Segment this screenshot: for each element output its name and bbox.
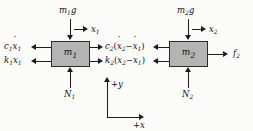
normal-2-arrow-head: [185, 67, 191, 72]
mass-2-label: m2: [182, 48, 195, 59]
disp-1-label: x1: [91, 25, 100, 34]
axis-y-arrow-head: [104, 77, 110, 82]
damper-2-right-arrow-line: [158, 47, 169, 48]
spring-2-label: k2(x2−x1): [105, 56, 145, 65]
mass-1-box: m1: [51, 41, 90, 67]
damper-1-arrow-head: [31, 44, 36, 50]
gravity-2-arrow-head: [185, 35, 191, 40]
gravity-2-label: m2g: [177, 6, 194, 15]
applied-force-arrow-line: [208, 54, 224, 55]
spring-2-right-arrow-head: [153, 58, 158, 64]
spring-2-right-arrow-line: [158, 61, 169, 62]
spring-1-arrow-line: [36, 61, 51, 62]
normal-1-arrow-line: [70, 72, 71, 88]
disp-2-arrow-head: [201, 26, 206, 32]
spring-1-arrow-head: [31, 58, 36, 64]
normal-1-arrow-head: [67, 67, 73, 72]
axis-y-line: [107, 82, 108, 118]
mass-1-label: m1: [64, 48, 77, 59]
spring-2-left-arrow-head: [98, 58, 103, 64]
mass-2-box: m2: [169, 41, 208, 67]
gravity-1-label: m1g: [59, 6, 76, 15]
spring-1-label: k1x1: [4, 56, 22, 65]
applied-force-arrow-head: [223, 51, 228, 57]
disp-1-arrow-head: [83, 26, 88, 32]
damper-2-left-arrow-head: [98, 44, 103, 50]
damper-2-right-arrow-head: [153, 44, 158, 50]
free-body-diagram: m1 m1g x1 c1x1 k1x1 N1 c2(x2−x1) k2(x2−x…: [0, 0, 253, 131]
gravity-1-arrow-head: [67, 35, 73, 40]
gravity-2-arrow-line: [188, 19, 189, 36]
axis-x-line: [107, 117, 140, 118]
applied-force-label: f2: [233, 49, 240, 58]
damper-2-label: c2(x2−x1): [105, 42, 145, 51]
gravity-1-arrow-line: [70, 19, 71, 36]
normal-2-label: N2: [182, 90, 193, 99]
disp-2-label: x2: [209, 25, 218, 34]
normal-2-arrow-line: [188, 72, 189, 88]
damper-1-label: c1x1: [4, 42, 21, 51]
damper-1-arrow-line: [36, 47, 51, 48]
axis-x-label: +x: [133, 121, 145, 130]
normal-1-label: N1: [64, 90, 75, 99]
axis-y-label: +y: [111, 80, 123, 89]
